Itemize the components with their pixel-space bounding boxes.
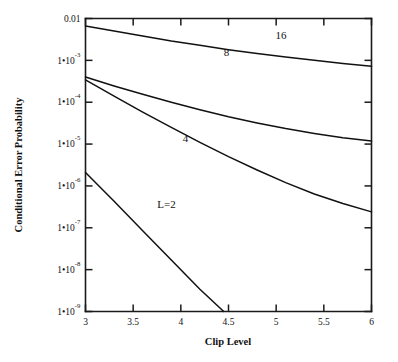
x-tick-label-1: 3.5 — [127, 317, 139, 327]
conditional-error-probability-chart: 0.011•10-31•10-41•10-51•10-61•10-71•10-8… — [0, 0, 398, 362]
data-curves — [86, 26, 372, 311]
curve-label-16: 16 — [275, 29, 287, 41]
curve-label-l2: L=2 — [157, 198, 175, 210]
x-tick-label-3: 4.5 — [223, 317, 235, 327]
y-tick-label-2: 1•10-4 — [57, 92, 81, 108]
x-tick-label-4: 5 — [274, 317, 279, 327]
x-tick-label-0: 3 — [83, 317, 88, 327]
x-tick-label-5: 5.5 — [318, 317, 330, 327]
y-tick-label-7: 1•10-9 — [57, 301, 81, 317]
y-tick-label-3: 1•10-5 — [57, 134, 81, 150]
y-tick-label-4: 1•10-6 — [57, 176, 81, 192]
x-tick-label-2: 4 — [178, 317, 183, 327]
x-axis-title: Clip Level — [205, 336, 251, 347]
curve-8 — [86, 77, 372, 141]
x-tick-labels: 33.544.555.56 — [83, 317, 374, 327]
y-tick-label-6: 1•10-8 — [57, 259, 81, 275]
curve-label-4: 4 — [183, 132, 189, 144]
chart-figure: 0.011•10-31•10-41•10-51•10-61•10-71•10-8… — [0, 0, 398, 362]
curve-l2 — [86, 172, 224, 311]
y-tick-label-5: 1•10-7 — [57, 217, 81, 233]
curve-labels: 1684L=2 — [157, 29, 287, 210]
curve-4 — [86, 80, 372, 212]
y-axis-title: Conditional Error Probability — [13, 97, 24, 233]
y-tick-label-0: 0.01 — [64, 14, 81, 24]
curve-label-8: 8 — [224, 46, 230, 58]
x-tick-label-6: 6 — [369, 317, 374, 327]
y-tick-label-1: 1•10-3 — [57, 50, 81, 66]
y-tick-labels: 0.011•10-31•10-41•10-51•10-61•10-71•10-8… — [57, 14, 81, 317]
